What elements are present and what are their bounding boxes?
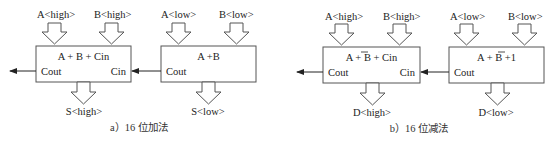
subtractor-high-cout: Cout xyxy=(328,67,349,78)
adder-high-cin: Cin xyxy=(111,66,127,77)
b-inverted: B xyxy=(495,52,502,63)
adder-high-operation: A + B + Cin xyxy=(58,51,110,62)
bus-arrow-icon xyxy=(387,24,412,45)
adder-low-operation: A +B xyxy=(197,51,220,62)
label-b-high: B<high> xyxy=(94,9,132,20)
bus-arrow-icon xyxy=(224,23,249,44)
label-a-low: A<low> xyxy=(161,9,196,20)
bus-arrow-icon xyxy=(196,82,221,104)
label-d-high: D<high> xyxy=(353,107,391,118)
caption-b: b）16 位减法 xyxy=(390,122,448,134)
diagram-a-16bit-addition: A<high> B<high> A<low> B<low> A + B + Ci… xyxy=(10,9,256,133)
bus-arrow-icon xyxy=(329,24,354,45)
label-a-high: A<high> xyxy=(325,11,363,22)
bus-arrow-icon xyxy=(512,24,537,45)
label-d-low: D<low> xyxy=(478,107,513,118)
label-s-low: S<low> xyxy=(191,106,225,117)
b-inverted: B xyxy=(364,52,371,63)
bus-arrow-icon xyxy=(99,23,124,44)
bus-arrow-icon xyxy=(71,82,96,104)
adder-subtractor-diagram: A<high> B<high> A<low> B<low> A + B + Ci… xyxy=(0,0,553,145)
label-b-low: B<low> xyxy=(508,11,543,22)
label-a-low: A<low> xyxy=(450,11,485,22)
bus-arrow-icon xyxy=(166,23,191,44)
subtractor-low-cout: Cout xyxy=(454,67,475,78)
label-a-high: A<high> xyxy=(37,9,75,20)
bus-arrow-icon xyxy=(485,83,510,105)
adder-high-cout: Cout xyxy=(41,66,62,77)
subtractor-high-operation: A + B + Cin xyxy=(346,52,398,63)
subtractor-high-cin: Cin xyxy=(400,67,416,78)
caption-a: a）16 位加法 xyxy=(110,121,168,133)
bus-arrow-icon xyxy=(360,83,385,105)
label-s-high: S<high> xyxy=(66,106,102,117)
label-b-low: B<low> xyxy=(219,9,254,20)
diagram-b-16bit-subtraction: A<high> B<high> A<low> B<low> A + B + Ci… xyxy=(297,11,544,134)
bus-arrow-icon xyxy=(42,23,67,44)
subtractor-low-operation: A + B +1 xyxy=(477,52,516,63)
bus-arrow-icon xyxy=(454,24,479,45)
adder-low-cout: Cout xyxy=(166,66,187,77)
label-b-high: B<high> xyxy=(383,11,421,22)
